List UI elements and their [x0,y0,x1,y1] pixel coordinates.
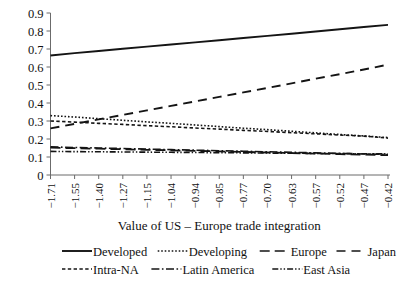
x-tick-label: −1.55 [69,183,81,209]
x-tick-label: −1.15 [141,183,153,209]
series-line-intra-na [51,121,389,138]
series-line-japan [51,65,389,129]
legend-label-latin-america: Latin America [182,263,254,277]
x-tick-label: −0.63 [286,183,298,209]
y-tick-label: 0 [37,169,43,183]
y-tick-label: 0.5 [28,79,44,93]
x-tick-label: −1.27 [117,183,129,209]
y-tick-label: 0.3 [28,115,44,129]
y-tick-label: 0.2 [28,133,44,147]
x-tick-label: −0.77 [237,183,249,209]
x-tick-label: −0.47 [358,183,370,209]
x-tick-label: −0.85 [213,183,225,209]
y-tick-label: 0.7 [28,43,44,57]
y-tick-label: 0.8 [28,25,44,39]
y-tick-label: 0.4 [28,97,44,111]
x-tick-label: −0.70 [261,183,273,209]
x-tick-label: −1.40 [93,183,105,209]
series-line-developed [51,25,389,56]
legend-label-developed: Developed [93,245,148,259]
legend-label-europe: Europe [291,245,328,259]
line-chart: 00.10.20.30.40.50.60.70.80.9−1.71−1.55−1… [0,0,409,285]
y-tick-label: 0.6 [28,61,44,75]
x-tick-label: −1.04 [165,183,177,209]
legend-label-japan: Japan [368,245,397,259]
x-tick-label: −0.57 [310,183,322,209]
x-axis-title: Value of US – Europe trade integration [118,218,321,233]
x-tick-label: −0.94 [189,183,201,209]
y-tick-label: 0.1 [28,151,44,165]
y-tick-label: 0.9 [28,7,44,21]
legend-label-developing: Developing [189,245,248,259]
legend-label-east-asia: East Asia [303,263,350,277]
legend-label-intra-na: Intra-NA [93,263,139,277]
x-tick-label: −1.71 [45,183,57,208]
x-tick-label: −0.42 [382,183,394,208]
x-tick-label: −0.52 [334,183,346,208]
chart-figure: 00.10.20.30.40.50.60.70.80.9−1.71−1.55−1… [0,0,409,285]
